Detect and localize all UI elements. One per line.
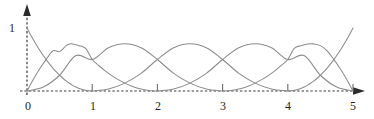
x-axis-tick-label-3: 3 (213, 100, 233, 112)
x-axis-tick-label-4: 4 (278, 100, 298, 112)
plot-canvas (0, 0, 374, 119)
bspline-basis-plot: 1 0 1 2 3 4 5 (0, 0, 374, 119)
x-axis-tick-label-0: 0 (18, 100, 38, 112)
basis-curve-N6 (288, 28, 353, 91)
basis-curve-N5 (223, 44, 353, 91)
x-axis-tick-label-2: 2 (148, 100, 168, 112)
basis-curves (27, 28, 353, 91)
basis-curve-N0 (27, 28, 92, 91)
x-axis-tick-label-1: 1 (83, 100, 103, 112)
basis-curve-N1 (27, 44, 157, 91)
basis-curve-N4 (157, 44, 353, 91)
basis-curve-N3 (92, 44, 288, 91)
y-axis-tick-label-1: 1 (9, 22, 15, 34)
y-axis-arrow-icon (23, 4, 31, 16)
x-axis-arrow-icon (353, 87, 365, 95)
x-axis-ticks (92, 84, 353, 91)
x-axis-tick-label-5: 5 (343, 100, 363, 112)
